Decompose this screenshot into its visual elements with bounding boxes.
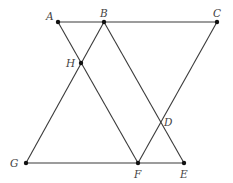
segment-be — [104, 22, 184, 163]
segments — [26, 22, 217, 163]
segment-af — [58, 22, 138, 163]
segment-bg — [26, 22, 104, 163]
label-h: H — [65, 57, 76, 69]
point-c-dot — [215, 20, 219, 24]
label-e: E — [179, 168, 188, 180]
labels: A B C H D G F E — [10, 7, 221, 180]
label-d: D — [163, 116, 173, 128]
label-a: A — [45, 10, 54, 22]
point-b-dot — [102, 20, 106, 24]
point-g-dot — [24, 161, 28, 165]
label-c: C — [213, 7, 221, 19]
label-g: G — [10, 157, 18, 169]
label-b: B — [99, 7, 108, 19]
point-h-dot — [79, 61, 83, 65]
points — [24, 20, 219, 165]
geometry-diagram: A B C H D G F E — [0, 0, 233, 183]
point-f-dot — [136, 161, 140, 165]
point-e-dot — [182, 161, 186, 165]
segment-cf — [138, 22, 217, 163]
point-a-dot — [56, 20, 60, 24]
label-f: F — [133, 168, 142, 180]
